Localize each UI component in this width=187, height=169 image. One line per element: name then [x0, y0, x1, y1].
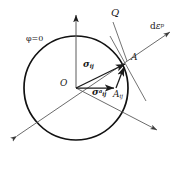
- deviatoric-axis-line: [17, 32, 170, 136]
- q-leader-line: [113, 22, 127, 61]
- a-ij-vector: [116, 67, 124, 88]
- back-stress-label: σaij: [92, 88, 106, 98]
- a-ij-label: Aij: [113, 90, 123, 100]
- sigma-ij-label: σij: [83, 60, 94, 70]
- yield-surface-label: φ=0: [26, 35, 43, 43]
- plastic-strain-increment-label: dεp: [150, 22, 164, 31]
- q-axis-label: Q: [111, 8, 119, 18]
- origin-label: O: [60, 79, 67, 88]
- point-a-label: A: [131, 53, 138, 62]
- yield-surface-diagram: φ=0 Q dεp A O σij σaij Aij: [0, 0, 187, 169]
